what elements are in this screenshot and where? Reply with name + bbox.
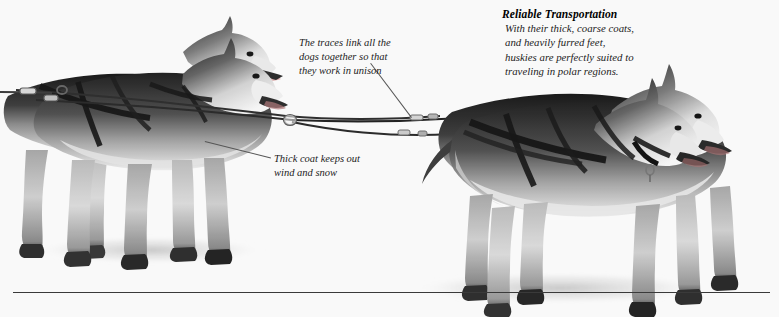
callout-body: With their thick, coarse coats, and heav… — [502, 21, 652, 79]
callout-title: Reliable Transportation — [502, 8, 652, 20]
caption-traces: The traces link all the dogs together so… — [299, 36, 429, 78]
callout-reliable-transportation: Reliable Transportation With their thick… — [502, 8, 652, 79]
image-canvas: The traces link all the dogs together so… — [0, 0, 779, 317]
caption-thick-coat: Thick coat keeps out wind and snow — [274, 152, 394, 180]
horizontal-divider-rule — [13, 292, 770, 293]
